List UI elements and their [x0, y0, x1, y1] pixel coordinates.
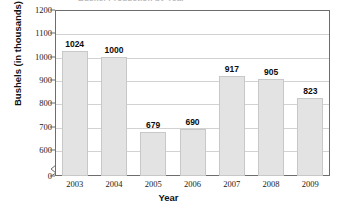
- bar: [140, 132, 166, 176]
- bar-value-label: 823: [303, 86, 317, 96]
- bar-value-label: 905: [264, 67, 278, 77]
- y-axis-tick-mark: [50, 33, 55, 34]
- y-axis-tick-mark: [50, 103, 55, 104]
- y-axis-tick-label: 0: [0, 171, 52, 181]
- bar: [101, 57, 127, 176]
- y-axis-tick-label: 800: [0, 98, 52, 108]
- bar: [219, 76, 245, 176]
- x-axis-tick-label: 2007: [223, 179, 240, 189]
- bar-value-label: 690: [185, 117, 199, 127]
- y-axis-title: Bushels (in thousands): [12, 0, 23, 129]
- bar: [297, 98, 323, 176]
- y-axis-tick-label: 1000: [0, 52, 52, 62]
- gridline: [56, 81, 329, 82]
- x-axis-tick-label: 2004: [105, 179, 122, 189]
- gridline: [56, 104, 329, 105]
- x-axis-tick-label: 2003: [66, 179, 83, 189]
- y-axis-tick-label: 1100: [0, 28, 52, 38]
- y-axis-tick-mark: [50, 80, 55, 81]
- gridline: [56, 58, 329, 59]
- y-axis-tick-mark: [50, 126, 55, 127]
- bar: [258, 79, 284, 176]
- axis-break-icon: [50, 163, 61, 176]
- x-axis-tick-label: 2009: [302, 179, 319, 189]
- bar-chart: Bushel Production by Year Bushels (in th…: [0, 0, 337, 209]
- chart-title-cropped: Bushel Production by Year: [78, 0, 248, 1]
- x-axis-title: Year: [0, 192, 337, 203]
- bar: [62, 51, 88, 176]
- y-axis-tick-mark: [50, 56, 55, 57]
- bar-value-label: 679: [146, 120, 160, 130]
- y-axis-tick-label: 700: [0, 122, 52, 132]
- x-axis-tick-label: 2005: [145, 179, 162, 189]
- y-axis-tick-label: 1200: [0, 5, 52, 15]
- x-axis-tick-label: 2008: [263, 179, 280, 189]
- y-axis-tick-label: 900: [0, 75, 52, 85]
- y-axis-tick-mark: [50, 10, 55, 11]
- bar-value-label: 1000: [104, 45, 123, 55]
- gridline: [56, 34, 329, 35]
- bar-value-label: 1024: [65, 39, 84, 49]
- bar: [180, 129, 206, 176]
- bar-value-label: 917: [225, 64, 239, 74]
- y-axis-tick-label: 600: [0, 145, 52, 155]
- y-axis-tick-mark: [50, 150, 55, 151]
- x-axis-tick-label: 2006: [184, 179, 201, 189]
